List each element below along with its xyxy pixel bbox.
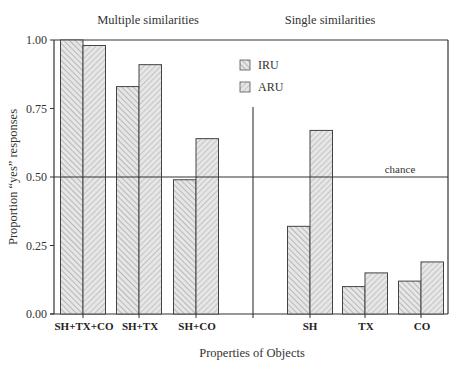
group-label-single: Single similarities <box>285 13 376 27</box>
legend-label-aru: ARU <box>258 80 284 94</box>
y-tick-label: 0.75 <box>26 102 47 116</box>
x-tick-label: SH+TX <box>122 320 158 332</box>
legend-label-iru: IRU <box>258 58 279 72</box>
x-tick-label: CO <box>414 320 431 332</box>
bar-aru-co <box>421 262 444 314</box>
x-tick-label: SH <box>303 320 318 332</box>
y-tick-label: 0.50 <box>26 170 47 184</box>
x-axis-label: Properties of Objects <box>199 346 305 360</box>
x-tick-label: SH+CO <box>178 320 216 332</box>
y-tick-label: 1.00 <box>26 33 47 47</box>
legend-swatch-iru <box>240 60 250 70</box>
bar-aru-sh-tx-co <box>83 45 106 314</box>
y-ticks: 1.00 0.75 0.50 0.25 0.00 <box>26 33 54 321</box>
chance-label: chance <box>385 163 416 175</box>
bar-iru-sh <box>288 226 311 314</box>
bar-aru-tx <box>365 273 388 314</box>
bar-iru-sh-tx <box>117 87 140 314</box>
bar-iru-sh-co <box>174 180 197 314</box>
y-tick-label: 0.25 <box>26 239 47 253</box>
bar-aru-sh <box>310 130 333 314</box>
y-tick-label: 0.00 <box>26 307 47 321</box>
legend-swatch-aru <box>240 82 250 92</box>
bar-aru-sh-co <box>196 139 219 314</box>
bar-chart: Multiple similarities Single similaritie… <box>0 0 459 370</box>
bar-aru-sh-tx <box>139 65 162 314</box>
bar-iru-tx <box>343 287 366 314</box>
group-label-multiple: Multiple similarities <box>97 13 199 27</box>
x-tick-label: TX <box>358 320 373 332</box>
y-axis-label: Proportion “yes” responses <box>6 109 20 245</box>
x-tick-label: SH+TX+CO <box>55 320 114 332</box>
bar-iru-co <box>399 281 422 314</box>
legend: IRU ARU <box>240 58 284 94</box>
